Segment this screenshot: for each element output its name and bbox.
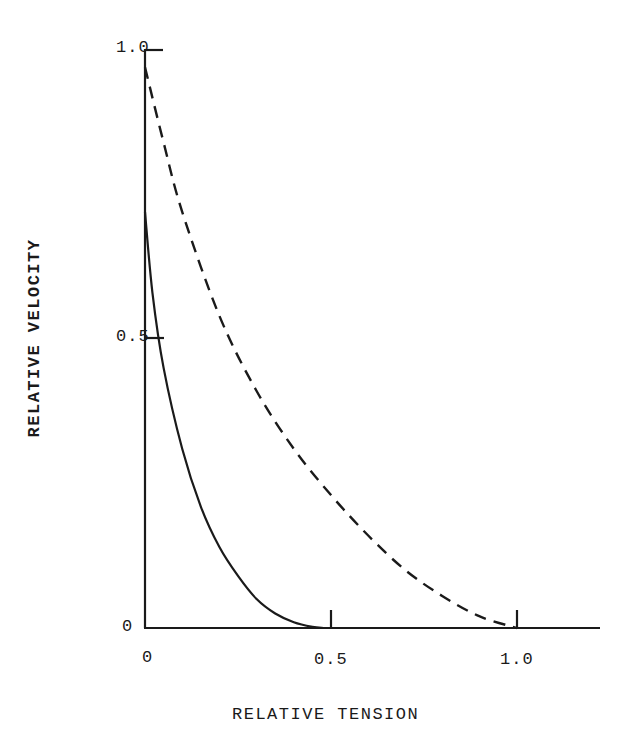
x-tick-label-0: 0: [142, 648, 153, 667]
y-axis-label: RELATIVE VELOCITY: [25, 239, 44, 438]
x-tick-label-1: 1.0: [500, 650, 534, 669]
y-tick-label-0: 0: [122, 617, 133, 636]
chart-canvas: [0, 0, 633, 750]
x-axis-label: RELATIVE TENSION: [232, 705, 419, 724]
y-tick-label-05: 0.5: [116, 327, 150, 346]
x-tick-label-05: 0.5: [314, 650, 348, 669]
y-tick-label-1: 1.0: [116, 38, 150, 57]
solid-curve: [145, 212, 324, 628]
dashed-curve: [145, 67, 517, 628]
